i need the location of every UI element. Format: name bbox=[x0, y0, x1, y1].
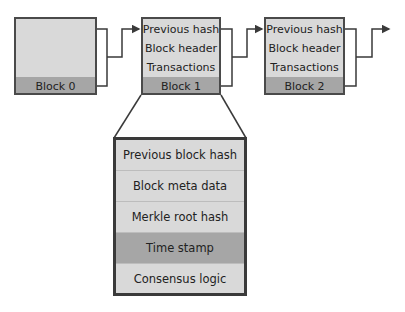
header-field-time-stamp: Time stamp bbox=[116, 233, 244, 264]
connector-block1-block2 bbox=[221, 29, 262, 86]
block-0-body bbox=[16, 19, 95, 77]
header-field-block-meta-data: Block meta data bbox=[116, 171, 244, 202]
connector-block0-block1 bbox=[97, 29, 139, 86]
block-0: Block 0 bbox=[14, 17, 97, 95]
block-2-block-header: Block header bbox=[266, 39, 343, 58]
header-field-consensus-logic: Consensus logic bbox=[116, 264, 244, 293]
block-1-transactions: Transactions bbox=[143, 58, 219, 77]
block-2: Previous hash Block header Transactions … bbox=[264, 17, 345, 95]
block-2-label: Block 2 bbox=[266, 77, 343, 95]
block-1-block-header: Block header bbox=[143, 39, 219, 58]
block-1: Previous hash Block header Transactions … bbox=[141, 17, 221, 95]
block-0-label: Block 0 bbox=[16, 77, 95, 95]
expanded-block-header: Previous block hash Block meta data Merk… bbox=[113, 137, 247, 296]
block-1-previous-hash: Previous hash bbox=[143, 19, 219, 39]
block-2-previous-hash: Previous hash bbox=[266, 19, 343, 39]
header-field-previous-block-hash: Previous block hash bbox=[116, 140, 244, 171]
expansion-lines bbox=[114, 95, 246, 138]
block-2-transactions: Transactions bbox=[266, 58, 343, 77]
connector-block2-next bbox=[345, 29, 389, 86]
header-field-merkle-root-hash: Merkle root hash bbox=[116, 202, 244, 233]
block-1-label: Block 1 bbox=[143, 77, 219, 95]
